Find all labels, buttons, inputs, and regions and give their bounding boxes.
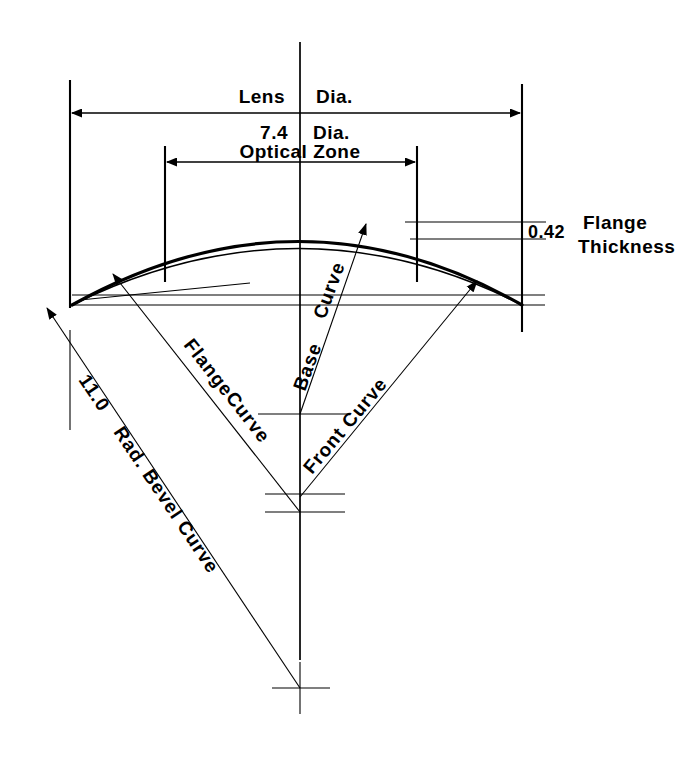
- flange-curve-label-word2: Curve: [222, 388, 275, 447]
- lens-cross-section-diagram: Lens Dia. 7.4 Dia. Optical Zone 0.42 Fla…: [0, 0, 686, 758]
- base-curve-label-word1: Base: [289, 340, 326, 394]
- optical-zone-unit: Dia.: [313, 122, 350, 143]
- edge-leader-line: [80, 283, 250, 300]
- lens-diameter-label-left: Lens: [239, 86, 285, 107]
- flange-thickness-annotation: 0.42 Flange Thickness: [405, 212, 675, 257]
- flange-thickness-label-line1: Flange: [583, 212, 647, 233]
- lens-chord-lines-group: [70, 295, 545, 305]
- flange-curve-label-word1: Flange: [180, 335, 238, 401]
- flange-thickness-value: 0.42: [528, 222, 565, 242]
- bevel-radius-label: Rad. Bevel Curve: [110, 422, 224, 577]
- optical-zone-label: Optical Zone: [239, 141, 360, 162]
- lens-diameter-dimension: Lens Dia.: [72, 86, 520, 113]
- bevel-curve-radius-group: 11.0 Rad. Bevel Curve: [47, 308, 330, 714]
- edge-leader-group: [80, 283, 250, 300]
- front-curve-label: Front Curve: [299, 373, 391, 477]
- bevel-radius-value: 11.0: [75, 370, 115, 415]
- base-curve-radius-group: Base Curve: [258, 224, 366, 414]
- reference-lines-group: [70, 42, 522, 660]
- lens-base-surface-curve: [72, 249, 522, 306]
- lens-diameter-label-right: Dia.: [316, 86, 353, 107]
- optical-zone-value: 7.4: [260, 122, 288, 143]
- lens-diagram-canvas: Lens Dia. 7.4 Dia. Optical Zone 0.42 Fla…: [0, 0, 686, 758]
- flange-thickness-label-line2: Thickness: [578, 236, 675, 257]
